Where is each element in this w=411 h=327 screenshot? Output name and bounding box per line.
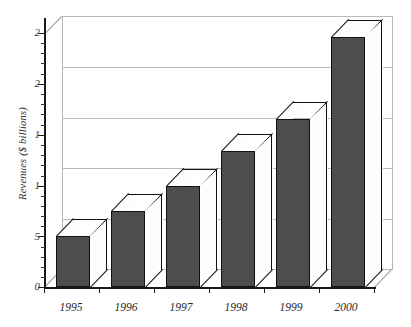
- y-minor-tick: [41, 43, 45, 44]
- bar-edge: [381, 20, 382, 270]
- x-axis-tick-label-1998: 1998: [210, 301, 262, 313]
- bar-front-1998: [221, 151, 255, 287]
- y-axis-tick-label: 1: [18, 180, 40, 191]
- y-minor-tick: [41, 176, 45, 177]
- bar-top-1997: [166, 169, 200, 186]
- y-minor-tick: [41, 226, 45, 227]
- x-tick: [99, 287, 100, 293]
- y-axis-tick-label: 2: [18, 27, 40, 38]
- y-minor-tick: [41, 277, 45, 278]
- plot-backwall-right-edge: [392, 16, 393, 269]
- x-tick: [374, 287, 375, 293]
- x-axis-tick-label-1997: 1997: [155, 301, 207, 313]
- y-axis-tick-label: 5: [18, 231, 40, 242]
- gridline-2-5: [62, 16, 393, 17]
- bar-edge: [348, 20, 382, 21]
- y-minor-tick: [41, 155, 45, 156]
- x-tick: [264, 287, 265, 293]
- y-minor-tick: [41, 206, 45, 207]
- x-axis-tick-label-2000: 2000: [320, 301, 372, 313]
- bar-edge: [128, 194, 162, 195]
- bar-edge: [271, 134, 272, 270]
- y-axis-tick-label: 1: [18, 129, 40, 140]
- y-axis-tick-label: 2: [18, 78, 40, 89]
- y-minor-tick: [41, 63, 45, 64]
- bar-edge: [161, 194, 162, 270]
- bar-edge: [293, 102, 327, 103]
- y-minor-tick: [41, 94, 45, 95]
- bar-top-1999: [276, 102, 310, 119]
- bar-front-1997: [166, 186, 200, 287]
- y-minor-tick: [41, 267, 45, 268]
- bar-top-2000: [331, 20, 365, 37]
- y-minor-tick: [41, 104, 45, 105]
- y-minor-tick: [41, 247, 45, 248]
- bar-front-2000: [331, 37, 365, 287]
- y-minor-tick: [41, 216, 45, 217]
- y-minor-tick: [41, 53, 45, 54]
- y-minor-tick: [41, 145, 45, 146]
- x-tick: [154, 287, 155, 293]
- bar-edge: [73, 219, 107, 220]
- bar-edge: [183, 169, 217, 170]
- y-minor-tick: [41, 74, 45, 75]
- x-tick: [209, 287, 210, 293]
- y-axis-tick-label: 0: [18, 281, 40, 292]
- x-axis-tick-label-1999: 1999: [265, 301, 317, 313]
- y-minor-tick: [41, 125, 45, 126]
- x-tick: [319, 287, 320, 293]
- x-axis-tick-label-1996: 1996: [100, 301, 152, 313]
- x-tick: [44, 287, 45, 293]
- bar-edge: [326, 102, 327, 270]
- bar-chart: Revenues ($ billions) 2 2 1 1 5 0: [0, 0, 411, 327]
- bar-front-1996: [111, 211, 145, 287]
- y-minor-tick: [41, 257, 45, 258]
- y-axis-title: Revenues ($ billions): [17, 74, 28, 234]
- bar-front-1999: [276, 119, 310, 287]
- y-minor-tick: [41, 196, 45, 197]
- bar-top-1998: [221, 134, 255, 151]
- y-minor-tick: [41, 114, 45, 115]
- plot-depth-edge-top-left: [44, 16, 62, 35]
- bar-edge: [216, 169, 217, 270]
- bar-edge: [238, 134, 272, 135]
- bar-top-1996: [111, 194, 145, 211]
- x-axis-tick-label-1995: 1995: [45, 301, 97, 313]
- bar-front-1995: [56, 236, 90, 287]
- bar-edge: [106, 219, 107, 270]
- y-minor-tick: [41, 165, 45, 166]
